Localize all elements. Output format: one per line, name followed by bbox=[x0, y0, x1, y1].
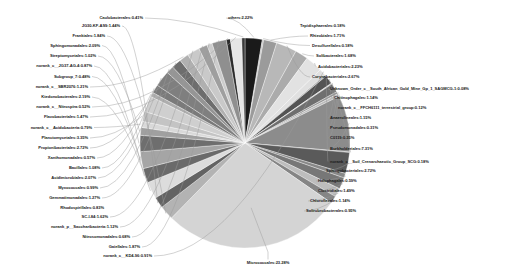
pie-label-bottom: Micrococcales:23.28% bbox=[247, 260, 290, 265]
pie-label-left: norank_c__SBR2076:1.21% bbox=[36, 84, 89, 89]
pie-label-right: Solirubrobacterales:0.95% bbox=[306, 208, 357, 213]
pie-label-left: Streptomycetales:1.02% bbox=[50, 53, 96, 58]
pie-label-right: Rhizobiales:1.71% bbox=[310, 33, 345, 38]
leader-line bbox=[94, 66, 144, 176]
pie-label-right: Unknown_Order_c__South_African_Gold_Mine… bbox=[330, 86, 469, 91]
leader-line bbox=[92, 77, 140, 161]
pie-chart-svg: Caulobacterales:0.41%JG30-KF-AS9:1.44%Fr… bbox=[0, 0, 507, 280]
pie-label-left: norank_c__KD4-96:0.91% bbox=[103, 253, 152, 258]
pie-label-left: SC-I-84:1.62% bbox=[82, 214, 109, 219]
leader-line bbox=[98, 56, 140, 131]
pie-label-right: Halophagales:0.59% bbox=[318, 178, 357, 183]
pie-label-left: norank_c__Nitrospira:0.52% bbox=[36, 104, 90, 109]
pie-label-right: Anaerolineales:1.15% bbox=[330, 115, 372, 120]
leader-line bbox=[271, 36, 308, 40]
leader-line bbox=[145, 18, 243, 37]
pie-label-right: Chloroflexales:1.14% bbox=[310, 198, 351, 203]
pie-label-left: norank_p__Saccharibacteria:1.12% bbox=[51, 224, 119, 229]
pie-label-left: Acidimicrobiales:2.07% bbox=[51, 175, 96, 180]
pie-label-right: Chitinophagales:1.14% bbox=[334, 95, 378, 100]
leader-line bbox=[102, 46, 139, 144]
pie-label-left: Subgroup_7:0.48% bbox=[54, 74, 90, 79]
pie-label-right: others:2.22% bbox=[228, 15, 253, 20]
pie-label-right: Sphingobacteriales:2.72% bbox=[326, 168, 376, 173]
pie-label-left: Planctomycetales:3.35% bbox=[42, 135, 89, 140]
pie-label-right: Desulfurellales:0.18% bbox=[312, 43, 353, 48]
pie-slices-group bbox=[140, 38, 350, 248]
pie-label-left: Myxococcales:0.99% bbox=[58, 185, 98, 190]
pie-label-left: Bacillales:1.08% bbox=[69, 165, 100, 170]
pie-label-right: norank_c__FFCH6111_terrestrial_group:0.1… bbox=[338, 105, 427, 110]
pie-label-left: Nitrosomonadales:0.68% bbox=[82, 234, 130, 239]
pie-label-right: Solibacterales:1.68% bbox=[316, 53, 356, 58]
pie-label-left: JG30-KF-AS9:1.44% bbox=[82, 23, 121, 28]
pie-label-left: Sphingomonadales:2.09% bbox=[50, 43, 100, 48]
pie-label-right: Burkholderiales:7.31% bbox=[330, 146, 373, 151]
pie-label-right: Corynebacteriales:2.67% bbox=[312, 74, 360, 79]
pie-label-right: Clostridiales:1.49% bbox=[318, 188, 355, 193]
pie-label-left: Ktedonobacterales:2.19% bbox=[41, 94, 90, 99]
pie-label-right: norank_c__Soil_Crenarchaeotic_Group_SCG:… bbox=[330, 159, 429, 164]
pie-chart-figure: Caulobacterales:0.41%JG30-KF-AS9:1.44%Fr… bbox=[0, 0, 507, 280]
pie-label-left: Flavobacteriales:1.47% bbox=[44, 114, 88, 119]
leader-line bbox=[302, 54, 314, 56]
pie-label-left: norank_c__JG37-AG-4:0.87% bbox=[36, 63, 92, 68]
pie-label-right: Acidobacteriales:2.23% bbox=[318, 64, 363, 69]
pie-label-left: Propionibacteriales:2.72% bbox=[38, 145, 88, 150]
pie-label-left: Rhodospirillales:0.83% bbox=[60, 205, 104, 210]
pie-label-right: C0119:0.35% bbox=[330, 135, 355, 140]
pie-label-left: Xanthomonadales:0.57% bbox=[48, 155, 96, 160]
leader-line bbox=[226, 18, 254, 37]
pie-label-left: Caulobacterales:0.41% bbox=[99, 15, 143, 20]
pie-label-left: Gemmatimonadales:1.27% bbox=[49, 195, 100, 200]
pie-label-left: Gaiellales:1.87% bbox=[109, 244, 141, 249]
pie-label-left: Frankiales:1.84% bbox=[73, 33, 106, 38]
pie-label-right: Pseudomonadales:0.31% bbox=[330, 125, 379, 130]
pie-label-left: norank_c__Acidobacteria:0.79% bbox=[31, 125, 93, 130]
pie-label-right: Tepidisphaerales:0.18% bbox=[300, 23, 345, 28]
